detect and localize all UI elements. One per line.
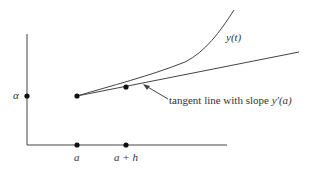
point-a-plus-h-on-x-axis [123,142,128,147]
point-initial-a-alpha [74,93,79,98]
point-alpha-on-y-axis [24,93,29,98]
arrowhead-icon [143,84,150,90]
tangent-line [77,52,299,96]
point-tangent-at-a-plus-h [123,84,128,89]
label-curve-y-of-t: y(t) [226,32,241,43]
curve-y-of-t [77,10,234,96]
label-tangent-line: tangent line with slope y′(a) [169,95,292,106]
label-alpha: α [13,90,19,101]
diagram-graphics [0,0,312,172]
tangent-slope-text: y′(a) [272,94,292,106]
point-a-on-x-axis [74,142,79,147]
tangent-line-diagram: α a a + h y(t) tangent line with slope y… [0,0,312,172]
label-a: a [74,152,80,163]
label-a-plus-h: a + h [114,152,138,163]
tangent-label-leader [146,86,168,99]
tangent-label-text: tangent line with slope [169,94,272,106]
